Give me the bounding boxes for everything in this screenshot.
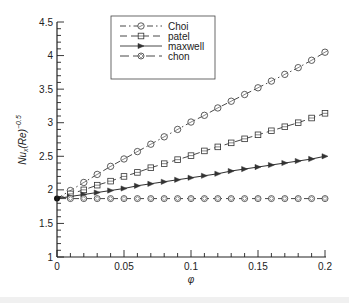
y-tick-label: 4 xyxy=(47,50,53,61)
y-axis-label-base: Nu xyxy=(17,152,28,165)
y-tick-label: 2.5 xyxy=(39,151,53,162)
x-tick-label: 0.15 xyxy=(248,261,268,272)
x-axis-label: φ xyxy=(188,274,195,285)
y-axis-label: Nux(Re)−0.5 xyxy=(15,115,29,165)
y-tick-label: 1 xyxy=(47,252,53,263)
y-axis-ticks: 11.522.533.544.5 xyxy=(39,17,64,263)
bottom-strip xyxy=(0,297,349,303)
y-tick-label: 4.5 xyxy=(39,17,53,28)
line-chart: 00.050.10.150.2 11.522.533.544.5 φ Nux(R… xyxy=(0,0,349,303)
legend: Choipatelmaxwellchon xyxy=(111,16,215,79)
y-tick-label: 2 xyxy=(47,184,53,195)
y-axis-label-mid: (Re) xyxy=(17,129,28,148)
x-tick-label: 0 xyxy=(54,261,60,272)
legend-label: chon xyxy=(168,51,190,62)
y-axis-label-sup: −0.5 xyxy=(15,115,22,129)
x-tick-label: 0.1 xyxy=(184,261,198,272)
x-tick-label: 0.2 xyxy=(318,261,332,272)
series-chon xyxy=(57,196,328,202)
y-tick-label: 3.5 xyxy=(39,84,53,95)
x-tick-label: 0.05 xyxy=(114,261,134,272)
y-tick-label: 3 xyxy=(47,117,53,128)
x-axis-ticks: 00.050.10.150.2 xyxy=(54,250,332,272)
svg-text:Nux(Re)−0.5: Nux(Re)−0.5 xyxy=(15,115,29,165)
y-tick-label: 1.5 xyxy=(39,218,53,229)
